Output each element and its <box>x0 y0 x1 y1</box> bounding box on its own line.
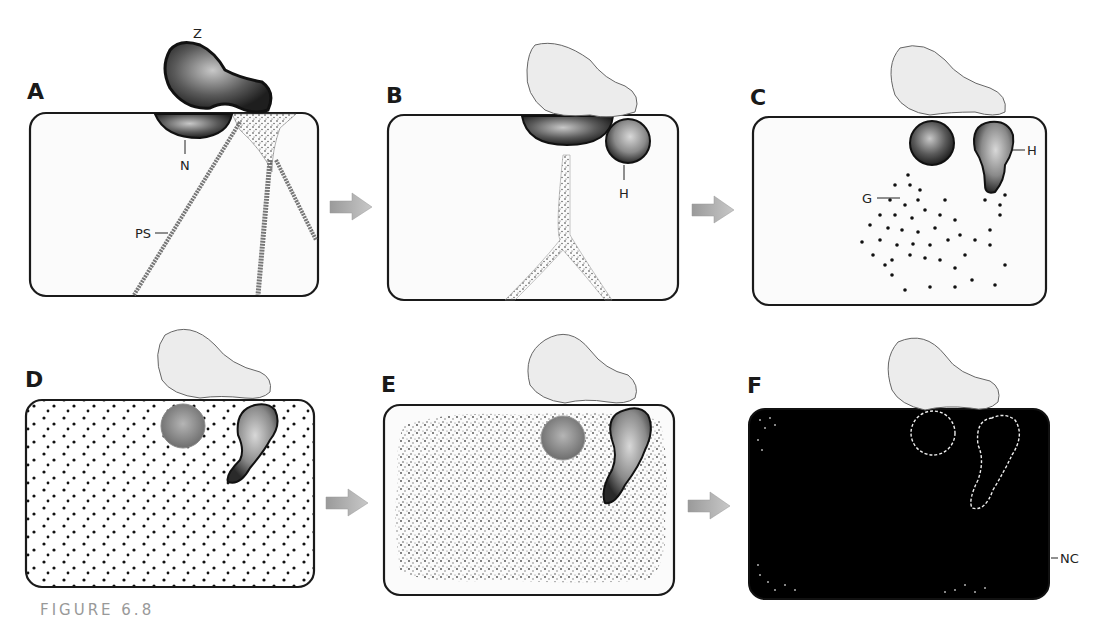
arrow-icon <box>330 193 372 220</box>
panel-b: H <box>388 43 678 300</box>
cell-f-necrotic <box>749 409 1049 599</box>
nucleus-n <box>161 404 205 448</box>
panel-label-c: C <box>750 85 766 110</box>
panel-label-e: E <box>381 372 396 397</box>
panel-d <box>26 329 314 587</box>
label-ps: PS <box>135 226 151 241</box>
nucleus-n <box>541 416 585 460</box>
caption-figure-number: FIGURE 6.8 <box>40 601 154 619</box>
nucleus-n <box>910 121 954 165</box>
zoospore-empty <box>528 334 637 403</box>
zoospore-empty <box>888 338 999 410</box>
label-h: H <box>1027 143 1037 158</box>
label-nc: NC <box>1060 551 1079 566</box>
arrow-icon <box>326 489 368 516</box>
panel-c: H G <box>753 46 1046 305</box>
panel-label-f: F <box>747 373 762 398</box>
zoospore-empty <box>158 329 271 398</box>
label-n: N <box>180 158 190 173</box>
figure-canvas: Z N PS H <box>0 0 1105 619</box>
haustorium-h <box>606 119 650 163</box>
panel-f: NC <box>749 338 1079 599</box>
label-z: Z <box>193 26 202 41</box>
zoospore-empty <box>891 46 1005 115</box>
zoospore-z <box>165 42 271 112</box>
panel-a: Z N PS <box>30 26 318 296</box>
arrow-icon <box>692 196 734 223</box>
panel-label-b: B <box>386 83 403 108</box>
label-g: G <box>862 191 872 206</box>
label-h: H <box>619 186 629 201</box>
figure-caption: FIGURE 6.8 <box>40 601 154 619</box>
panel-label-a: A <box>27 79 44 104</box>
panel-e <box>384 334 674 595</box>
panel-label-d: D <box>25 367 43 392</box>
zoospore-empty <box>527 43 637 117</box>
arrow-icon <box>688 492 730 519</box>
